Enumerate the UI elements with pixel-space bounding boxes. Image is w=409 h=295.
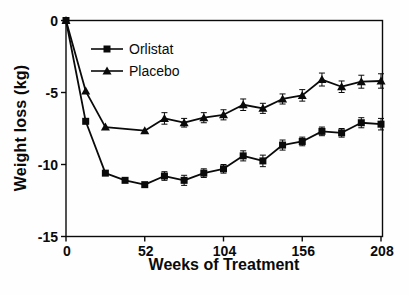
triangle-marker	[317, 75, 326, 83]
x-tick-label: 0	[63, 243, 71, 259]
triangle-marker	[160, 114, 169, 122]
y-axis-title: Weight loss (kg)	[12, 65, 30, 191]
weight-loss-figure: 0-5-10-15052104156208 Weight loss (kg) W…	[0, 0, 409, 295]
square-marker	[378, 121, 385, 128]
chart-canvas: 0-5-10-15052104156208	[0, 0, 409, 295]
legend-item-placebo: Placebo	[90, 60, 180, 82]
square-marker	[220, 165, 227, 172]
legend-item-orlistat: Orlistat	[90, 38, 180, 60]
square-marker	[122, 177, 129, 184]
triangle-marker-icon	[90, 64, 124, 78]
square-marker-icon	[90, 42, 124, 56]
square-marker	[358, 119, 365, 126]
square-marker	[161, 173, 168, 180]
square-marker	[318, 128, 325, 135]
legend-label-orlistat: Orlistat	[129, 42, 173, 56]
triangle-marker	[239, 100, 248, 108]
square-marker	[102, 170, 109, 177]
y-tick-label: -15	[38, 229, 58, 245]
square-marker	[141, 181, 148, 188]
y-tick-label: -10	[38, 157, 58, 173]
square-marker	[200, 170, 207, 177]
y-tick-label: 0	[50, 13, 58, 29]
square-marker	[279, 142, 286, 149]
x-axis-title: Weeks of Treatment	[149, 256, 300, 274]
legend-label-placebo: Placebo	[129, 64, 180, 78]
x-tick-label: 208	[370, 243, 394, 259]
square-marker	[181, 177, 188, 184]
square-marker	[82, 118, 89, 125]
triangle-marker	[81, 87, 90, 95]
square-marker	[259, 157, 266, 164]
legend: Orlistat Placebo	[90, 38, 180, 82]
y-tick-label: -5	[46, 85, 59, 101]
square-marker	[299, 138, 306, 145]
square-marker	[240, 152, 247, 159]
triangle-marker	[219, 110, 228, 118]
square-marker	[338, 129, 345, 136]
